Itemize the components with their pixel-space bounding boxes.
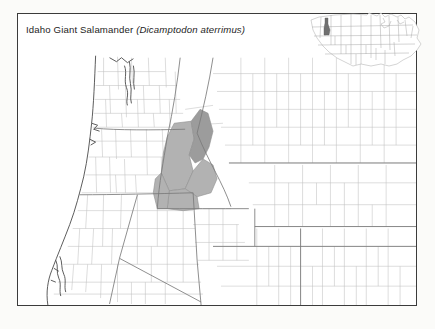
common-name-label: Idaho Giant Salamander bbox=[26, 24, 133, 35]
figure-container: .cty { fill:none; stroke:#c0c0c0; stroke… bbox=[0, 0, 435, 329]
map-title: Idaho Giant Salamander (Dicamptodon ater… bbox=[26, 23, 245, 36]
landmass-layer bbox=[47, 56, 416, 305]
inset-locator-map: .ist { fill:#ffffff; stroke:#a8a8a8; str… bbox=[305, 4, 429, 74]
united-states-inset-svg: .ist { fill:#ffffff; stroke:#a8a8a8; str… bbox=[305, 4, 429, 74]
scientific-name-label: (Dicamptodon aterrimus) bbox=[136, 24, 245, 35]
